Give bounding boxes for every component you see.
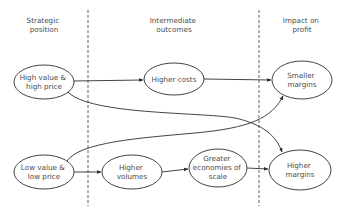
node-low-value-low-price: Low value & low price (14, 155, 74, 189)
node-label: Higher margins (285, 161, 314, 179)
strategy-profit-diagram: Strategic position Intermediate outcomes… (0, 0, 348, 216)
node-higher-costs: Higher costs (144, 63, 204, 95)
node-higher-margins: Higher margins (269, 150, 331, 190)
edge-high-value-to-higher-costs (74, 80, 143, 81)
edge-low-value-to-smaller-margins (67, 96, 283, 161)
node-higher-volumes: Higher volumes (102, 155, 162, 189)
node-label: High value & high price (20, 73, 69, 91)
edge-higher-costs-to-smaller-margins (204, 79, 271, 80)
node-greater-economies-of-scale: Greater economies of scale (189, 149, 247, 187)
node-smaller-margins: Smaller margins (272, 61, 332, 99)
column-header-strategic: Strategic position (27, 16, 62, 34)
column-header-intermediate: Intermediate outcomes (150, 16, 199, 34)
node-label: Higher volumes (117, 163, 148, 181)
node-high-value-high-price: High value & high price (14, 65, 74, 99)
node-label: Smaller margins (287, 71, 317, 89)
node-label: Low value & low price (21, 163, 67, 181)
edge-high-value-to-higher-margins (68, 92, 282, 152)
node-label: Higher costs (152, 75, 197, 84)
edge-economies-to-higher-margins (247, 168, 268, 169)
column-header-impact: Impact on profit (283, 16, 321, 34)
edge-higher-volumes-to-economies (162, 169, 188, 172)
